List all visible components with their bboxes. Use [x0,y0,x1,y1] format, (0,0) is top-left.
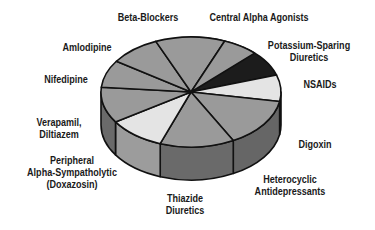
label-text: Diuretics [263,51,356,63]
label-text: Diuretics [159,204,211,216]
label-digoxin: Digoxin [285,138,345,150]
label-text: NSAIDs [294,78,346,90]
label-potassium-sparing-diuretics: Potassium-Sparing Diuretics [263,39,356,63]
label-amlodipine: Amlodipine [57,41,117,53]
label-beta-blockers: Beta-Blockers [105,11,191,23]
label-text: Antidepressants [251,185,328,197]
label-text: Verapamil, [29,116,89,128]
label-text: Nifedipine [40,73,92,85]
label-text: Central Alpha Agonists [204,11,314,23]
label-text: Heterocyclic [251,173,328,185]
label-verapamil-diltiazem: Verapamil, Diltiazem [29,116,89,140]
pie-top-face [101,37,281,147]
label-text: Digoxin [285,138,345,150]
label-text: Peripheral [26,154,119,166]
label-text: Amlodipine [57,41,117,53]
label-text: Thiazide [159,192,211,204]
label-nsaids: NSAIDs [294,78,346,90]
label-text: (Doxazosin) [26,178,119,190]
label-text: Alpha-Sympatholytic [26,166,119,178]
label-heterocyclic-antidepressants: Heterocyclic Antidepressants [251,173,328,197]
label-thiazide-diuretics: Thiazide Diuretics [159,192,211,216]
label-text: Beta-Blockers [105,11,191,23]
label-nifedipine: Nifedipine [40,73,92,85]
label-text: Potassium-Sparing [263,39,356,51]
label-central-alpha-agonists: Central Alpha Agonists [204,11,314,23]
label-text: Diltiazem [29,128,89,140]
label-peripheral-alpha-sympatholytic: Peripheral Alpha-Sympatholytic (Doxazosi… [26,154,119,190]
